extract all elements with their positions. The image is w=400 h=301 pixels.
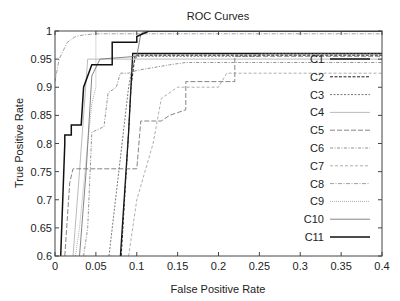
x-tick-label: 0 xyxy=(52,260,58,272)
x-tick-label: 0.35 xyxy=(330,260,351,272)
y-tick-label: 0.8 xyxy=(37,138,52,150)
legend-label: C6 xyxy=(310,142,324,154)
x-tick-label: 0.3 xyxy=(293,260,308,272)
x-tick-label: 0.05 xyxy=(85,260,106,272)
legend-item-c10: C10 xyxy=(304,213,370,225)
legend: C1C2C3C4C5C6C7C8C9C10C11 xyxy=(304,53,370,243)
legend-item-c8: C8 xyxy=(310,178,370,190)
legend-label: C8 xyxy=(310,178,324,190)
y-tick-label: 0.7 xyxy=(37,194,52,206)
x-tick-label: 0.15 xyxy=(167,260,188,272)
y-tick-label: 0.95 xyxy=(31,53,52,65)
roc-chart: ROC Curves 00.050.10.150.20.250.30.350.4… xyxy=(0,0,400,301)
y-axis: 0.60.650.70.750.80.850.90.951 xyxy=(31,25,382,262)
y-axis-label: True Positive Rate xyxy=(13,98,25,188)
x-tick-label: 0.1 xyxy=(129,260,144,272)
legend-label: C1 xyxy=(310,53,324,65)
roc-curve-c10 xyxy=(80,31,383,256)
roc-curve-c5 xyxy=(65,56,382,256)
x-axis: 00.050.10.150.20.250.30.350.4 xyxy=(52,31,390,272)
legend-item-c2: C2 xyxy=(310,71,370,83)
legend-label: C5 xyxy=(310,124,324,136)
legend-item-c7: C7 xyxy=(310,160,370,172)
legend-label: C4 xyxy=(310,106,324,118)
y-tick-label: 1 xyxy=(46,25,52,37)
legend-item-c5: C5 xyxy=(310,124,370,136)
y-tick-label: 0.9 xyxy=(37,81,52,93)
legend-label: C11 xyxy=(305,231,324,243)
legend-item-c9: C9 xyxy=(310,195,370,207)
legend-label: C3 xyxy=(310,89,324,101)
x-tick-label: 0.25 xyxy=(249,260,270,272)
y-tick-label: 0.65 xyxy=(31,222,52,234)
legend-label: C7 xyxy=(310,160,324,172)
x-tick-label: 0.2 xyxy=(211,260,226,272)
legend-item-c4: C4 xyxy=(310,106,370,118)
y-tick-label: 0.75 xyxy=(31,166,52,178)
x-axis-label: False Positive Rate xyxy=(171,283,266,295)
roc-curve-c2 xyxy=(121,55,382,256)
legend-label: C2 xyxy=(310,71,324,83)
y-tick-label: 0.85 xyxy=(31,109,52,121)
legend-label: C10 xyxy=(304,213,324,225)
roc-curve-c4 xyxy=(73,59,382,256)
roc-curve-c7 xyxy=(129,73,382,256)
legend-item-c3: C3 xyxy=(310,89,370,101)
roc-curve-c9 xyxy=(75,31,382,256)
plot-series xyxy=(55,31,382,256)
y-tick-label: 0.6 xyxy=(37,250,52,262)
roc-curve-c1 xyxy=(120,54,382,257)
legend-label: C9 xyxy=(310,195,324,207)
roc-curve-c11 xyxy=(61,31,382,256)
x-tick-label: 0.4 xyxy=(374,260,389,272)
legend-item-c6: C6 xyxy=(310,142,370,154)
roc-curve-c3 xyxy=(109,54,382,257)
chart-title: ROC Curves xyxy=(187,10,250,22)
legend-item-c11: C11 xyxy=(305,231,370,243)
roc-curve-c8 xyxy=(55,34,382,82)
